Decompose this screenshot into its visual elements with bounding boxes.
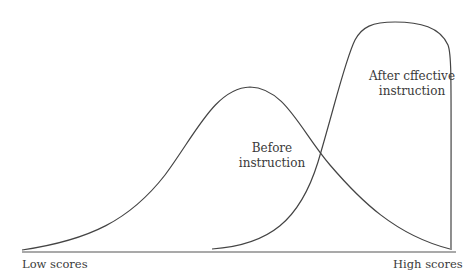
low-scores-label: Low scores: [22, 257, 88, 271]
after-label-line1: After cffective: [362, 69, 462, 84]
after-label-line2: instruction: [362, 84, 462, 99]
high-scores-label: High scores: [393, 257, 463, 271]
before-label-line2: instruction: [232, 156, 312, 171]
distribution-diagram: [0, 0, 476, 271]
before-instruction-label: Before instruction: [232, 141, 312, 171]
before-label-line1: Before: [232, 141, 312, 156]
after-instruction-curve: [212, 22, 451, 250]
after-instruction-label: After cffective instruction: [362, 69, 462, 99]
